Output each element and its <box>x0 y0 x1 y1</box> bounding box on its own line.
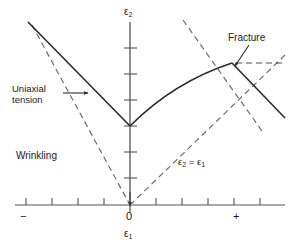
forming-limit-curve-left-branch <box>28 22 130 126</box>
post-fracture-descent <box>232 63 285 118</box>
x-axis-tick-label-positive: + <box>233 210 239 222</box>
annotation-wrinkling: Wrinkling <box>16 150 57 161</box>
annotation-uniaxial-tension: Uniaxial tension <box>12 84 46 105</box>
x-axis-label: ε1 <box>124 228 132 239</box>
x-axis-tick-label-negative: − <box>20 210 26 222</box>
annotation-equibiaxial: ε2 = ε1 <box>178 157 205 168</box>
equibiaxial-sub-2: 2 <box>182 161 186 168</box>
x-axis-tick-label-zero: 0 <box>126 210 132 222</box>
x-axis-label-subscript: 1 <box>128 233 132 240</box>
forming-limit-curve-right-branch <box>130 63 232 126</box>
y-axis-label: ε2 <box>124 6 132 17</box>
annotation-fracture: Fracture <box>228 32 265 43</box>
equibiaxial-sub-1: 1 <box>201 161 205 168</box>
uniaxial-tension-line1: Uniaxial <box>12 83 46 94</box>
forming-limit-diagram: Uniaxial tension Wrinkling Fracture ε2 ε… <box>0 0 296 249</box>
x-axis-ticks <box>26 198 260 205</box>
uniaxial-tension-line <box>32 25 130 205</box>
y-axis-label-subscript: 2 <box>128 11 132 18</box>
uniaxial-tension-line2: tension <box>12 94 43 105</box>
equibiaxial-equals: = ε <box>186 156 201 167</box>
